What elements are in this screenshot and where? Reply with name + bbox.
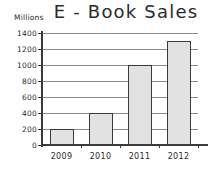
- y-tick-label: 600: [22, 93, 37, 102]
- y-tick-mark: [38, 129, 43, 130]
- x-axis-label-2011: 2011: [129, 152, 151, 161]
- y-tick-mark: [38, 49, 43, 50]
- y-tick-label: 1000: [17, 61, 37, 70]
- y-tick-label: 800: [22, 77, 37, 86]
- x-axis-label-2010: 2010: [90, 152, 112, 161]
- x-tick-mark: [159, 144, 160, 148]
- y-tick-mark: [38, 33, 43, 34]
- plot-area: 1400120010008006004002000: [42, 33, 198, 145]
- y-tick-label: 1200: [17, 45, 37, 54]
- x-tick-mark: [120, 144, 121, 148]
- y-tick-label: 200: [22, 125, 37, 134]
- y-tick-label: 0: [32, 141, 37, 150]
- y-tick-label: 1400: [17, 29, 37, 38]
- x-axis-label-2012: 2012: [168, 152, 190, 161]
- x-tick-mark: [198, 144, 199, 148]
- bar-chart: E - Book Sales Millions 1400120010008006…: [0, 0, 218, 175]
- y-tick-label: 400: [22, 109, 37, 118]
- y-tick-mark: [38, 81, 43, 82]
- x-tick-mark: [81, 144, 82, 148]
- y-tick-mark: [38, 97, 43, 98]
- bar-2010: [89, 113, 113, 145]
- bar-2012: [167, 41, 191, 145]
- y-axis-unit-label: Millions: [14, 13, 44, 22]
- gridline: [42, 33, 198, 34]
- y-tick-mark: [38, 65, 43, 66]
- x-axis-label-2009: 2009: [51, 152, 73, 161]
- y-tick-mark: [38, 113, 43, 114]
- bar-2011: [128, 65, 152, 145]
- bar-2009: [50, 129, 74, 145]
- y-tick-mark: [38, 145, 43, 146]
